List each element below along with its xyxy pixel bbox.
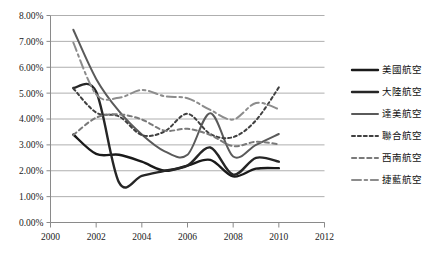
y-tick-label: 0.00% — [19, 218, 44, 228]
x-tick-label: 2008 — [224, 232, 243, 242]
y-tick-label: 8.00% — [19, 11, 44, 21]
series-line-3 — [73, 30, 278, 158]
airline-market-share-chart: 0.00%1.00%2.00%3.00%4.00%5.00%6.00%7.00%… — [0, 0, 447, 268]
series-line-4 — [73, 87, 278, 138]
y-tick-label: 4.00% — [19, 114, 44, 124]
x-tick-label: 2010 — [269, 232, 288, 242]
legend-label-6: 捷藍航空 — [382, 174, 422, 185]
x-tick-label: 2006 — [178, 232, 197, 242]
x-tick-label: 2004 — [132, 232, 151, 242]
x-tick-label: 2002 — [87, 232, 106, 242]
x-tick-label: 2000 — [41, 232, 60, 242]
legend-label-1: 美國航空 — [382, 64, 422, 75]
series-line-6 — [73, 43, 278, 120]
y-tick-label: 1.00% — [19, 192, 44, 202]
y-tick-label: 2.00% — [19, 166, 44, 176]
x-tick-label: 2012 — [315, 232, 334, 242]
chart-canvas: 0.00%1.00%2.00%3.00%4.00%5.00%6.00%7.00%… — [0, 0, 447, 268]
y-tick-label: 5.00% — [19, 89, 44, 99]
legend-label-5: 西南航空 — [382, 152, 422, 163]
y-tick-label: 7.00% — [19, 37, 44, 47]
legend-label-4: 聯合航空 — [382, 130, 422, 141]
legend-label-3: 達美航空 — [382, 108, 422, 119]
y-tick-label: 6.00% — [19, 63, 44, 73]
y-tick-label: 3.00% — [19, 140, 44, 150]
legend-label-2: 大陸航空 — [382, 86, 422, 97]
